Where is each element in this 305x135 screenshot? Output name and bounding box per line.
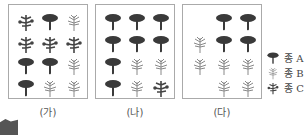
tree-species-b-icon xyxy=(151,56,171,76)
tree-species-a-icon xyxy=(214,12,234,32)
tree-species-a-icon xyxy=(103,56,123,76)
tree-species-a-icon xyxy=(151,12,171,32)
tree-species-c-icon xyxy=(64,34,84,54)
tree-species-b-icon xyxy=(64,56,84,76)
tree-species-b-icon xyxy=(40,78,60,98)
tree-species-b-icon xyxy=(238,56,258,76)
tree-a-icon xyxy=(266,51,284,65)
legend-item-a: 종 A xyxy=(266,50,304,65)
tree-species-b-icon xyxy=(64,12,84,32)
tree-species-b-icon xyxy=(127,56,147,76)
tree-species-c-icon xyxy=(151,78,171,98)
tree-species-a-icon xyxy=(127,12,147,32)
tree-species-b-icon xyxy=(214,78,234,98)
tree-species-a-icon xyxy=(238,34,258,54)
tree-species-a-icon xyxy=(16,56,36,76)
tree-b-icon xyxy=(266,66,284,80)
tree-species-a-icon xyxy=(103,34,123,54)
tree-species-a-icon xyxy=(40,12,60,32)
tree-species-b-icon xyxy=(190,56,210,76)
tree-species-b-icon xyxy=(238,78,258,98)
legend: 종 A 종 B 종 C xyxy=(266,50,304,95)
tree-species-a-icon xyxy=(103,12,123,32)
tree-species-b-icon xyxy=(214,56,234,76)
panel-da xyxy=(182,4,262,99)
panel-ga xyxy=(8,4,88,99)
tree-grid xyxy=(183,5,261,98)
corner-badge-icon xyxy=(0,119,18,135)
tree-grid xyxy=(96,5,174,98)
tree-c-icon xyxy=(266,81,284,95)
panel-label-da: (다) xyxy=(182,104,262,119)
tree-species-a-icon xyxy=(40,56,60,76)
tree-species-b-icon xyxy=(190,34,210,54)
tree-species-c-icon xyxy=(40,34,60,54)
tree-species-b-icon xyxy=(64,78,84,98)
tree-species-a-icon xyxy=(214,34,234,54)
tree-species-a-icon xyxy=(127,34,147,54)
legend-item-c: 종 C xyxy=(266,80,304,95)
panel-label-ga: (가) xyxy=(8,104,88,119)
legend-item-b: 종 B xyxy=(266,65,304,80)
tree-grid xyxy=(9,5,87,98)
tree-species-b-icon xyxy=(127,78,147,98)
tree-species-c-icon xyxy=(16,12,36,32)
tree-species-a-icon xyxy=(151,34,171,54)
tree-species-a-icon xyxy=(238,12,258,32)
tree-species-a-icon xyxy=(103,78,123,98)
tree-species-a-icon xyxy=(16,78,36,98)
tree-species-c-icon xyxy=(16,34,36,54)
panel-na xyxy=(95,4,175,99)
panel-label-na: (나) xyxy=(95,104,175,119)
